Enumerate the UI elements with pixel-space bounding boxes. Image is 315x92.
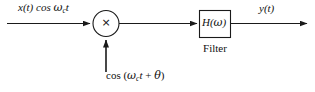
filter-transfer-h: H( <box>202 16 214 28</box>
filter-omega-symbol: ω <box>214 16 223 29</box>
output-signal-label: y(t) <box>259 3 274 14</box>
oscillator-omega-symbol: ω <box>127 69 136 82</box>
oscillator-prefix: cos ( <box>106 69 127 81</box>
input-signal-label: x(t) cos ωct <box>18 2 69 15</box>
filter-caption: Filter <box>199 43 231 54</box>
oscillator-label: cos (ωct + θ) <box>106 70 164 83</box>
oscillator-plus-sign: + <box>142 69 154 81</box>
input-time-variable: t <box>66 1 69 13</box>
input-signal-text: x(t) cos <box>18 1 53 13</box>
oscillator-theta-symbol: θ <box>154 69 161 82</box>
filter-transfer-label: H(ω) <box>202 17 226 28</box>
block-diagram: × x(t) cos ωct cos (ωct + θ) H(ω) Filter… <box>0 0 315 92</box>
oscillator-suffix: ) <box>161 69 165 81</box>
multiply-icon: × <box>99 16 113 30</box>
filter-transfer-close: ) <box>223 16 227 28</box>
